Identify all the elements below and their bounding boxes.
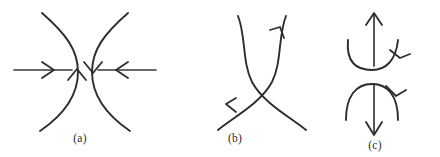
panel-c-caption: (c) [310, 140, 440, 152]
right-arc-bulging-left [92, 13, 130, 131]
u-shaped-curve [348, 40, 398, 70]
panel-b: (b) [160, 0, 310, 157]
figure-canvas: (a) (b) (c) [0, 0, 440, 157]
panel-b-caption: (b) [160, 133, 310, 145]
left-arc-bulging-right [40, 13, 78, 131]
arrowhead-lower-left [226, 98, 236, 112]
panel-c: (c) [310, 0, 440, 157]
panel-a-caption: (a) [0, 133, 160, 145]
panel-a: (a) [0, 0, 160, 157]
curve-lower-left-to-upper-right [218, 16, 286, 130]
panel-c-drawing [310, 0, 440, 157]
curve-upper-left-to-lower-right [238, 16, 306, 130]
